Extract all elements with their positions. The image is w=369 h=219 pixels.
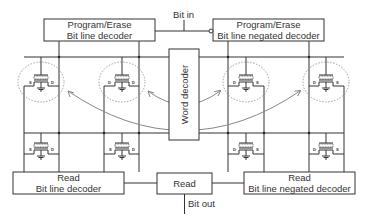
pin-d: D [51,147,54,152]
pin-s: S [29,147,32,152]
pin-d: D [51,80,54,85]
pin-d: D [233,80,236,85]
read-bit-line-negated-decoder: Read Bit line negated decoder [244,172,355,194]
read-decoder-line2: Bit line decoder [36,183,101,194]
lower-cell-4: D S [309,133,344,159]
pe-decoder-line2: Bit line decoder [67,30,132,41]
flash-memory-circuit-diagram: Program/Erase Bit line decoder Program/E… [0,0,369,219]
read-center-block: Read [124,173,244,194]
pe-decoder-line1: Program/Erase [68,19,132,30]
upper-cell-1: S D [18,57,64,102]
upper-cell-3: D S [223,57,269,102]
word-decoder-label: Word decoder [179,65,190,125]
pe-negated-decoder-line2: Bit line negated decoder [217,30,319,41]
program-erase-bit-line-negated-decoder: Program/Erase Bit line negated decoder [213,19,324,41]
pin-d: D [233,147,236,152]
bit-out-label: Bit out [188,198,215,209]
pin-d: D [108,80,111,85]
pin-d: D [313,80,316,85]
read-decoder-line1: Read [57,172,80,183]
lower-cell-1: S D [24,133,59,159]
bit-out-signal: Bit out [185,194,216,214]
lower-cell-2: S D [104,133,139,159]
lower-cell-3: D S [228,133,264,159]
bit-in-signal: Bit in [155,9,213,33]
upper-cell-4: D S [303,57,349,102]
pin-d: D [313,147,316,152]
pin-s: S [256,147,259,152]
read-negated-decoder-line1: Read [288,172,311,183]
read-center-label: Read [173,178,196,189]
read-negated-decoder-line2: Bit line negated decoder [248,183,350,194]
pin-s: S [336,80,339,85]
pin-s: S [336,147,339,152]
pin-d: D [132,80,135,85]
pe-negated-decoder-line1: Program/Erase [237,19,301,30]
program-erase-bit-line-decoder: Program/Erase Bit line decoder [44,19,155,41]
read-bit-line-decoder: Read Bit line decoder [13,172,124,194]
word-decoder: Word decoder [169,49,199,140]
pin-d: D [132,147,135,152]
upper-cell-2: D D [99,57,145,102]
pin-s: S [109,147,112,152]
pin-s: S [256,80,259,85]
inverter-bubble [209,29,213,33]
bit-in-label: Bit in [173,9,194,20]
pin-s: S [29,80,32,85]
